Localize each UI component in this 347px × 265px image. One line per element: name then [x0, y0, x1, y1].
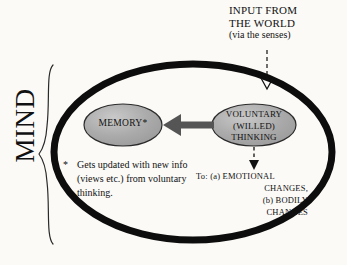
- diagram-text-layer: INPUT FROM THE WORLD (via the senses) MI…: [0, 0, 347, 265]
- input-heading-line-1: INPUT FROM: [229, 4, 347, 17]
- outcomes-block: To: (a) EMOTIONAL CHANGES, (b) BODILY CH…: [196, 170, 308, 218]
- input-heading-line-3: (via the senses): [229, 29, 347, 42]
- memory-footnote: * Gets updated with new info (views etc.…: [63, 158, 198, 200]
- input-heading-line-2: THE WORLD: [229, 17, 347, 30]
- outcomes-line-2: CHANGES,: [196, 182, 308, 194]
- footnote-text: Gets updated with new info (views etc.) …: [77, 158, 198, 200]
- thinking-label-line-3: THINKING: [212, 132, 296, 144]
- input-from-world-heading: INPUT FROM THE WORLD (via the senses): [229, 4, 347, 42]
- outcomes-line-4: CHANGES: [196, 206, 308, 218]
- outcomes-line-3: (b) BODILY: [196, 194, 308, 206]
- footnote-marker: *: [63, 158, 68, 172]
- memory-node-label: MEMORY*: [85, 118, 161, 128]
- thinking-label-line-1: VOLUNTARY: [212, 109, 296, 121]
- mind-label: MIND: [10, 83, 41, 169]
- thinking-label-line-2: (WILLED): [212, 121, 296, 133]
- voluntary-thinking-node-label: VOLUNTARY (WILLED) THINKING: [212, 109, 296, 144]
- outcomes-line-1: To: (a) EMOTIONAL: [196, 170, 308, 182]
- diagram-canvas: INPUT FROM THE WORLD (via the senses) MI…: [0, 0, 347, 265]
